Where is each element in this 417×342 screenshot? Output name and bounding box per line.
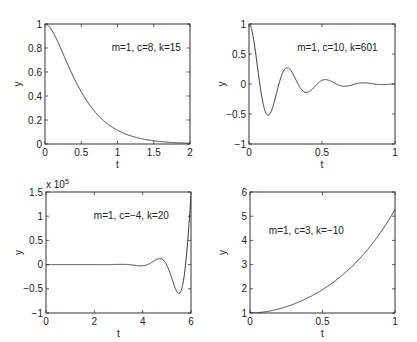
y-tick-label: −1 bbox=[32, 308, 44, 319]
x-tick-label: 1 bbox=[392, 147, 398, 158]
x-tick-label: 1.5 bbox=[147, 147, 161, 158]
subplot-2: 00.51−1−0.500.51tym=1, c=10, k=601 bbox=[216, 19, 398, 171]
subplot-3: 0246−1−0.500.511.5tym=1, c=−4, k=20x 105 bbox=[13, 178, 194, 339]
x-tick-label: 0.5 bbox=[316, 316, 330, 327]
y-tick-label: 6 bbox=[241, 187, 247, 198]
y-tick-label: −0.5 bbox=[23, 283, 43, 294]
figure: 00.511.5200.20.40.60.81tym=1, c=8, k=150… bbox=[0, 0, 417, 342]
x-tick-label: 0 bbox=[42, 147, 48, 158]
y-tick-label: 0.8 bbox=[28, 43, 42, 54]
y-tick-label: 1 bbox=[36, 19, 42, 30]
y-tick-label: 3 bbox=[241, 259, 247, 270]
x-tick-label: 0.5 bbox=[315, 147, 329, 158]
axes-box bbox=[250, 192, 395, 313]
y-axis-label: y bbox=[217, 250, 228, 255]
y-tick-label: 0.5 bbox=[29, 235, 43, 246]
y-tick-label: −1 bbox=[235, 139, 247, 150]
y-tick-label: 0.5 bbox=[232, 49, 246, 60]
x-axis-label: t bbox=[117, 328, 120, 339]
y-tick-label: 0 bbox=[240, 79, 246, 90]
x-tick-label: 1 bbox=[115, 147, 121, 158]
parameter-annotation: m=1, c=−4, k=20 bbox=[94, 210, 169, 221]
y-tick-label: 2 bbox=[241, 283, 247, 294]
y-tick-label: 0 bbox=[37, 259, 43, 270]
x-axis-label: t bbox=[321, 159, 324, 170]
y-tick-label: 5 bbox=[241, 211, 247, 222]
x-axis-label: t bbox=[116, 159, 119, 170]
y-tick-label: 1 bbox=[240, 19, 246, 30]
y-axis-label: y bbox=[12, 82, 23, 87]
x-tick-label: 2 bbox=[187, 147, 193, 158]
x-tick-label: 1 bbox=[392, 316, 398, 327]
x-tick-label: 2 bbox=[92, 316, 98, 327]
parameter-annotation: m=1, c=10, k=601 bbox=[297, 42, 378, 53]
x-tick-label: 0 bbox=[247, 316, 253, 327]
parameter-annotation: m=1, c=8, k=15 bbox=[112, 42, 182, 53]
y-tick-label: 4 bbox=[241, 235, 247, 246]
x-tick-label: 0 bbox=[43, 316, 49, 327]
y-tick-label: 0.6 bbox=[28, 67, 42, 78]
y-tick-label: 1.5 bbox=[29, 187, 43, 198]
parameter-annotation: m=1, c=3, k=−10 bbox=[269, 225, 344, 236]
x-tick-label: 0.5 bbox=[74, 147, 88, 158]
y-tick-label: 0.2 bbox=[28, 115, 42, 126]
x-axis-label: t bbox=[321, 328, 324, 339]
y-multiplier: x 105 bbox=[46, 178, 69, 190]
y-tick-label: 0.4 bbox=[28, 91, 42, 102]
y-tick-label: −0.5 bbox=[226, 109, 246, 120]
x-tick-label: 0 bbox=[246, 147, 252, 158]
y-tick-label: 1 bbox=[241, 308, 247, 319]
y-axis-label: y bbox=[216, 82, 227, 87]
y-tick-label: 0 bbox=[36, 139, 42, 150]
x-tick-label: 6 bbox=[188, 316, 194, 327]
response-curve bbox=[249, 24, 395, 115]
y-axis-label: y bbox=[13, 250, 24, 255]
subplot-4: 00.51123456tym=1, c=3, k=−10 bbox=[217, 187, 398, 340]
x-tick-label: 4 bbox=[140, 316, 146, 327]
subplot-1: 00.511.5200.20.40.60.81tym=1, c=8, k=15 bbox=[12, 19, 193, 171]
y-tick-label: 1 bbox=[37, 211, 43, 222]
